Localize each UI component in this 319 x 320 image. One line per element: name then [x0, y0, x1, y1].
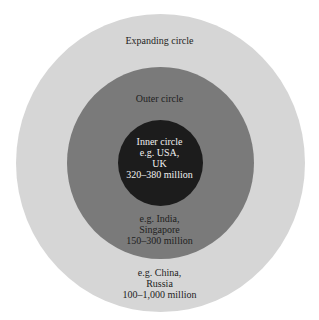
- outer-circle-examples: e.g. India, Singapore 150–300 million: [0, 213, 319, 246]
- expanding-circle-example-1: e.g. China,: [0, 267, 319, 278]
- outer-circle-population: 150–300 million: [0, 235, 319, 246]
- outer-circle-example-1: e.g. India,: [0, 213, 319, 224]
- expanding-circle-title: Expanding circle: [0, 35, 319, 46]
- expanding-circle-example-2: Russia: [0, 278, 319, 289]
- outer-circle-example-2: Singapore: [0, 224, 319, 235]
- outer-circle-title: Outer circle: [0, 93, 319, 104]
- inner-circle-text: Inner circle e.g. USA, UK 320–380 millio…: [0, 136, 319, 180]
- expanding-circle-examples: e.g. China, Russia 100–1,000 million: [0, 267, 319, 300]
- expanding-circle-population: 100–1,000 million: [0, 289, 319, 300]
- inner-circle-title: Inner circle: [0, 136, 319, 147]
- inner-circle-population: 320–380 million: [0, 169, 319, 180]
- inner-circle-example-2: UK: [0, 158, 319, 169]
- inner-circle-example-1: e.g. USA,: [0, 147, 319, 158]
